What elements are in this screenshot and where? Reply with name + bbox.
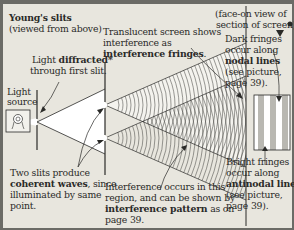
label-dark-fringes-5: page 39). [225,78,268,89]
label-interference-pattern: interference pattern as on [105,204,234,215]
label-interference-region: Interference occurs in this [105,182,225,193]
diagram-subtitle: (viewed from above) [9,24,102,35]
label-translucent-screen: Translucent screen shows [103,27,221,38]
label-two-slits: Two slits produce [10,168,90,179]
label-face-on-view-2: section of screen) [216,20,294,31]
label-bright-fringes: Bright fringes [226,157,289,168]
label-bright-fringes-2: occur along [226,168,279,179]
label-light-diffracted: Light diffracted* [32,55,113,66]
label-interference-region-2: region, and can be shown by [105,193,235,204]
label-interference-region-4: page 39. [105,215,144,226]
label-translucent-screen-2: interference as [103,38,172,49]
fringes-pattern [254,95,290,150]
light-source-icon [6,110,30,132]
label-nodal-lines: nodal lines [225,56,280,67]
label-dark-fringes-4: (see picture, [225,67,282,78]
label-antinodal-lines: antinodal lines [226,179,294,190]
label-dark-fringes: Dark fringes [225,34,282,45]
label-dark-fringes-2: occur along [225,45,278,56]
diffracted-light-cone [37,89,105,154]
label-translucent-screen-3: interference fringes. [103,49,206,60]
label-two-slits-3: illuminated by same [10,190,101,201]
label-light-diffracted-2: through first slit. [30,66,107,77]
diagram-title: Young's slits [9,13,72,24]
label-light-source-2: source [7,97,37,108]
label-face-on-view: (face-on view of [215,9,286,20]
label-coherent-waves: coherent waves, since [10,179,116,190]
label-two-slits-4: point. [10,201,36,212]
